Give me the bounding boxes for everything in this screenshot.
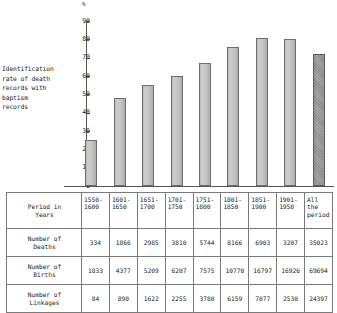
data-cell: 7077 [249, 285, 277, 313]
bar-1651-1700 [142, 85, 154, 186]
data-cell: 3810 [165, 229, 193, 257]
period-header-cell: 1701- 1750 [165, 193, 193, 229]
bar-1901-1950 [284, 39, 296, 186]
data-table: Period in Years1550- 16001601- 16501651-… [6, 192, 333, 313]
table-body: Period in Years1550- 16001601- 16501651-… [7, 193, 333, 313]
data-cell: 2255 [165, 285, 193, 313]
period-header-cell: 1651- 1700 [137, 193, 165, 229]
data-cell: 24397 [305, 285, 333, 313]
bar-all-the-period [313, 54, 325, 186]
bar-1801-1850 [227, 47, 239, 186]
data-cell: 6159 [221, 285, 249, 313]
data-cell: 3207 [277, 229, 305, 257]
data-cell: 16926 [277, 257, 305, 285]
row-label: Number of Deaths [7, 229, 82, 257]
bar-1701-1750 [171, 76, 183, 186]
row-number-of-deaths: Number of Deaths334186629853810574481666… [7, 229, 333, 257]
data-cell: 6207 [165, 257, 193, 285]
bar-chart: % 9080706050403020100 Identificationrate… [0, 0, 337, 192]
bar-1550-1600 [85, 140, 97, 186]
data-cell: 334 [82, 229, 110, 257]
period-header-cell: All the period [305, 193, 333, 229]
data-cell: 84 [82, 285, 110, 313]
data-cell: 890 [109, 285, 137, 313]
data-cell: 10770 [221, 257, 249, 285]
data-cell: 1833 [82, 257, 110, 285]
row-number-of-births: Number of Births183343775209620775751077… [7, 257, 333, 285]
period-header-cell: 1751- 1800 [193, 193, 221, 229]
bars-layer [0, 0, 337, 187]
data-cell: 4377 [109, 257, 137, 285]
data-cell: 5209 [137, 257, 165, 285]
data-cell: 8166 [221, 229, 249, 257]
bar-1601-1650 [114, 98, 126, 186]
data-cell: 5744 [193, 229, 221, 257]
row-label: Period in Years [7, 193, 82, 229]
row-period-in-years: Period in Years1550- 16001601- 16501651-… [7, 193, 333, 229]
period-header-cell: 1601- 1650 [109, 193, 137, 229]
data-cell: 1622 [137, 285, 165, 313]
data-cell: 2985 [137, 229, 165, 257]
bar-1751-1800 [199, 63, 211, 186]
row-label: Number of Linkages [7, 285, 82, 313]
data-cell: 1866 [109, 229, 137, 257]
period-header-cell: 1801- 1850 [221, 193, 249, 229]
data-cell: 7575 [193, 257, 221, 285]
data-cell: 2530 [277, 285, 305, 313]
data-cell: 16797 [249, 257, 277, 285]
row-number-of-linkages: Number of Linkages8489016222255378061597… [7, 285, 333, 313]
period-header-cell: 1851- 1900 [249, 193, 277, 229]
data-cell: 35023 [305, 229, 333, 257]
period-header-cell: 1550- 1600 [82, 193, 110, 229]
period-header-cell: 1901- 1950 [277, 193, 305, 229]
data-cell: 6903 [249, 229, 277, 257]
row-label: Number of Births [7, 257, 82, 285]
data-cell: 3780 [193, 285, 221, 313]
bar-1851-1900 [256, 38, 268, 187]
data-cell: 69694 [305, 257, 333, 285]
